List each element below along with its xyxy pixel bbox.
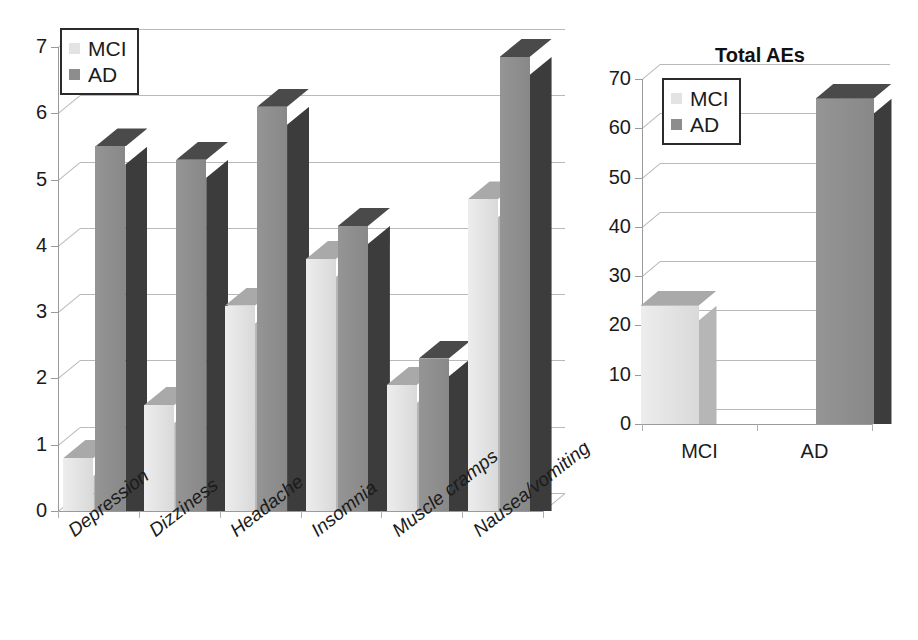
bar-top-face xyxy=(641,291,717,306)
bar-ad xyxy=(95,128,147,511)
legend-item-mci: MCI xyxy=(69,35,127,61)
y-axis-label: 50 xyxy=(589,167,631,187)
legend-label-ad: AD xyxy=(88,64,117,85)
legend-swatch-ad xyxy=(69,69,80,80)
bar-top-face xyxy=(95,128,147,146)
y-axis-label: 6 xyxy=(5,102,47,122)
y-axis-tick xyxy=(51,378,58,379)
x-axis-tick xyxy=(543,511,544,518)
bar-top-face xyxy=(257,89,309,107)
bar-front-face xyxy=(387,385,417,511)
gridline-riser xyxy=(58,162,81,181)
right-bar-chart: Total AEs 706050403020100MCIAD MCI AD xyxy=(590,0,918,640)
y-axis-tick xyxy=(635,128,642,129)
x-axis-tick xyxy=(642,424,643,431)
bar-ad xyxy=(338,208,390,511)
gridline xyxy=(80,162,565,163)
bar-top-face xyxy=(338,208,390,226)
bar-front-face xyxy=(816,99,874,424)
x-axis-tick xyxy=(462,511,463,518)
y-axis-label: 0 xyxy=(589,413,631,433)
y-axis-label: 30 xyxy=(589,265,631,285)
legend-swatch-mci xyxy=(69,43,80,54)
legend-item-mci: MCI xyxy=(671,85,729,111)
legend-label-ad: AD xyxy=(690,114,719,135)
bar-side-face xyxy=(874,99,892,424)
y-axis-label: 3 xyxy=(5,301,47,321)
y-axis-line xyxy=(58,47,59,512)
legend-item-ad: AD xyxy=(671,111,729,137)
y-axis-tick xyxy=(51,511,58,512)
y-axis-tick xyxy=(51,246,58,247)
legend-label-mci: MCI xyxy=(88,38,127,59)
bar-ad xyxy=(176,142,228,511)
y-axis-tick xyxy=(51,312,58,313)
gridline-riser xyxy=(58,95,81,114)
bar-top-face xyxy=(176,142,228,160)
y-axis-label: 40 xyxy=(589,216,631,236)
y-axis-label: 70 xyxy=(589,68,631,88)
right-plot-area: 706050403020100MCIAD xyxy=(590,0,918,640)
y-axis-tick xyxy=(635,276,642,277)
x-axis-tick xyxy=(58,511,59,518)
x-axis-tick xyxy=(220,511,221,518)
gridline xyxy=(80,29,565,30)
legend-swatch-mci xyxy=(671,93,682,104)
bar-ad xyxy=(500,39,552,511)
legend-item-ad: AD xyxy=(69,61,127,87)
y-axis-tick xyxy=(635,79,642,80)
x-axis-category-label: AD xyxy=(765,440,865,463)
bar-front-face xyxy=(641,306,699,424)
left-chart-legend: MCI AD xyxy=(60,28,139,95)
y-axis-label: 1 xyxy=(5,434,47,454)
y-axis-label: 5 xyxy=(5,169,47,189)
legend-label-mci: MCI xyxy=(690,88,729,109)
gridline-riser xyxy=(642,113,661,129)
x-axis-tick xyxy=(301,511,302,518)
bar-side-face xyxy=(530,57,552,511)
y-axis-label: 0 xyxy=(5,500,47,520)
bar-front-face xyxy=(176,160,206,511)
left-bar-chart: 76543210DepressionDizzinessHeadacheInsom… xyxy=(0,0,580,640)
right-chart-legend: MCI AD xyxy=(662,78,741,145)
gridline-riser xyxy=(642,163,661,179)
bar-front-face xyxy=(306,259,336,511)
y-axis-tick xyxy=(51,113,58,114)
y-axis-tick xyxy=(635,227,642,228)
bar-ad xyxy=(257,89,309,511)
bar-front-face xyxy=(225,306,255,511)
gridline-riser xyxy=(58,294,81,313)
x-axis-tick xyxy=(381,511,382,518)
y-axis-tick xyxy=(51,180,58,181)
y-axis-label: 10 xyxy=(589,364,631,384)
y-axis-label: 20 xyxy=(589,314,631,334)
bar-side-face xyxy=(699,306,717,424)
bar-ad xyxy=(816,84,892,424)
gridline-riser xyxy=(58,360,81,379)
bar-top-face xyxy=(419,341,471,359)
y-axis-tick xyxy=(635,424,642,425)
gridline-riser xyxy=(642,64,661,80)
bar-mci xyxy=(641,291,717,424)
gridline xyxy=(80,95,565,96)
bar-front-face xyxy=(95,146,125,511)
bar-top-face xyxy=(816,84,892,99)
y-axis-label: 2 xyxy=(5,367,47,387)
legend-swatch-ad xyxy=(671,119,682,130)
x-axis-tick xyxy=(139,511,140,518)
right-chart-title: Total AEs xyxy=(680,44,840,67)
y-axis-label: 4 xyxy=(5,235,47,255)
bar-front-face xyxy=(144,405,174,511)
y-axis-label: 60 xyxy=(589,117,631,137)
x-axis-category-label: MCI xyxy=(650,440,750,463)
figure-root: 76543210DepressionDizzinessHeadacheInsom… xyxy=(0,0,918,640)
gridline-riser xyxy=(58,228,81,247)
bar-front-face xyxy=(500,57,530,511)
y-axis-tick xyxy=(51,445,58,446)
bar-top-face xyxy=(500,39,552,57)
bar-front-face xyxy=(257,107,287,511)
left-plot-area: 76543210DepressionDizzinessHeadacheInsom… xyxy=(0,0,580,640)
bar-front-face xyxy=(338,226,368,511)
x-axis-tick xyxy=(872,424,873,431)
x-axis-tick xyxy=(757,424,758,431)
